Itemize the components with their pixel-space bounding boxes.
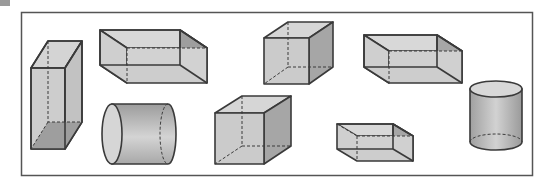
flat-rectangular-prism-1 <box>100 30 207 83</box>
cylinder-top-face <box>470 81 522 97</box>
cylinder-end-face <box>102 104 122 164</box>
tall-rectangular-prism <box>31 41 82 149</box>
flat-rectangular-prism-2 <box>364 35 462 83</box>
shapes-figure <box>0 0 548 181</box>
horizontal-cylinder <box>102 104 176 164</box>
vertical-cylinder <box>470 81 522 150</box>
small-rectangular-prism <box>337 124 413 161</box>
cube-1 <box>264 22 333 84</box>
cube-2 <box>215 96 291 164</box>
